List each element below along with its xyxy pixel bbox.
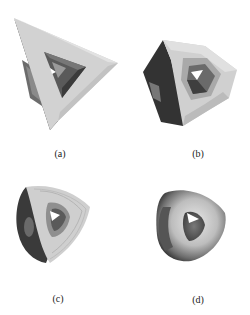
panel-label-c: (c) xyxy=(43,293,73,304)
panel-d: (d) xyxy=(125,155,250,300)
panel-c: (c) xyxy=(0,155,125,300)
panel-a: (a) xyxy=(0,0,125,145)
panel-b: (b) xyxy=(125,0,250,145)
triangular-torus-mesh-figure xyxy=(0,0,125,145)
smooth-torus-limit-surface-figure xyxy=(125,155,250,300)
panel-label-d: (d) xyxy=(183,294,213,305)
subdivided-torus-level1-figure xyxy=(125,0,250,145)
subdivided-torus-level2-figure xyxy=(0,155,125,300)
